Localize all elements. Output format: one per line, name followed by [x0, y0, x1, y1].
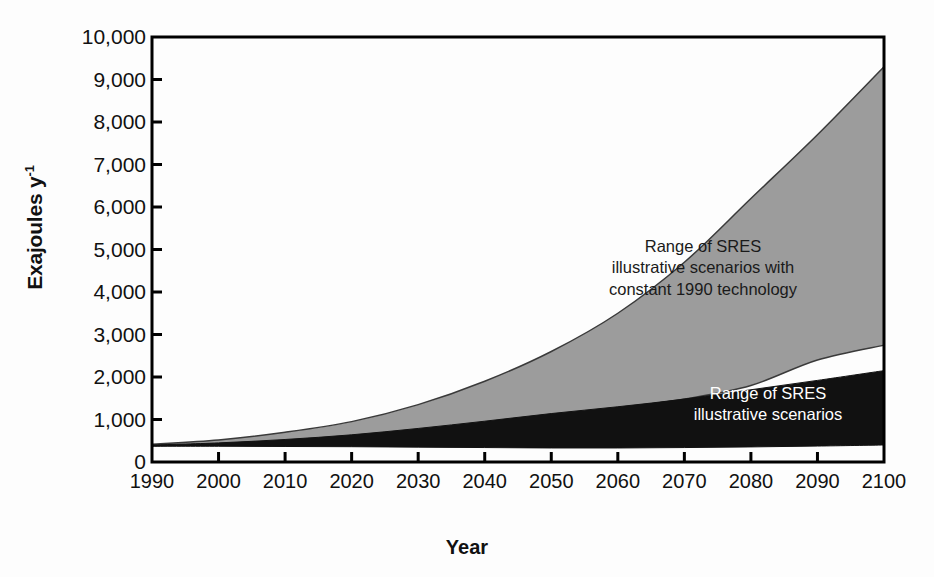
x-tick-label: 2100: [862, 470, 907, 493]
y-tick-label: 1,000: [16, 408, 146, 432]
y-tick-label: 5,000: [16, 238, 146, 262]
annotation-sres-scenarios: Range of SRESillustrative scenarios: [694, 383, 843, 426]
annotation-constant-technology: Range of SRESillustrative scenarios with…: [609, 236, 797, 300]
x-tick-label: 2000: [196, 470, 241, 493]
chart-container: Exajoules y-1 01,0002,0003,0004,0005,000…: [0, 0, 934, 577]
y-tick-label: 9,000: [16, 68, 146, 92]
x-tick-label: 2030: [396, 470, 441, 493]
x-tick-label: 2070: [662, 470, 707, 493]
annotation-line: illustrative scenarios: [694, 404, 843, 425]
x-axis-title: Year: [0, 536, 934, 559]
y-tick-label: 10,000: [16, 25, 146, 49]
x-tick-label: 2050: [529, 470, 574, 493]
annotation-line: illustrative scenarios with: [609, 257, 797, 278]
x-tick-label: 2060: [596, 470, 641, 493]
y-tick-label: 8,000: [16, 110, 146, 134]
y-tick-label: 6,000: [16, 195, 146, 219]
y-tick-label: 4,000: [16, 280, 146, 304]
y-tick-label: 0: [16, 450, 146, 474]
x-tick-label: 2080: [729, 470, 774, 493]
x-tick-label: 2020: [329, 470, 374, 493]
annotation-line: constant 1990 technology: [609, 279, 797, 300]
x-tick-label: 2040: [462, 470, 507, 493]
x-tick-label: 2010: [263, 470, 308, 493]
y-tick-label: 3,000: [16, 323, 146, 347]
annotation-line: Range of SRES: [609, 236, 797, 257]
y-tick-label: 2,000: [16, 365, 146, 389]
y-axis-tick-labels: 01,0002,0003,0004,0005,0006,0007,0008,00…: [8, 0, 146, 577]
y-tick-label: 7,000: [16, 153, 146, 177]
x-tick-label: 2090: [795, 470, 840, 493]
annotation-line: Range of SRES: [694, 383, 843, 404]
x-tick-label: 1990: [130, 470, 175, 493]
